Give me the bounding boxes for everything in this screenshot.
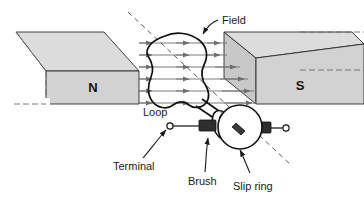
generator-diagram: N S [0,0,364,206]
diagram-canvas: N S [0,0,364,206]
slip-ring-leader-arrow [240,150,250,173]
field-label: Field [222,14,246,26]
terminal-post-left [167,123,173,129]
brush-label: Brush [188,175,217,187]
loop-label: Loop [143,106,167,118]
brush-left [199,120,216,131]
wire-loop [147,33,209,108]
terminal-label: Terminal [113,160,155,172]
north-magnet: N [0,32,139,108]
south-magnet: S [224,32,364,104]
slip-ring-assembly [199,105,271,149]
terminal-leader-arrow [143,130,166,158]
north-magnet-top-face [16,32,139,71]
terminal-post-right [283,125,289,131]
slip-ring-label: Slip ring [233,180,273,192]
field-leader-arrow [203,20,218,34]
brush-leader-arrow [205,138,208,172]
north-pole-label: N [88,80,97,95]
south-pole-label: S [296,78,305,93]
